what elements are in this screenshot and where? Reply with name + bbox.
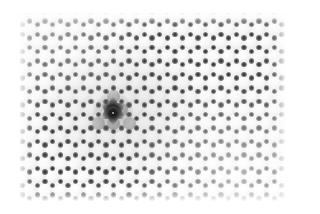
lattice-junction [88,152,93,157]
lattice-junction [65,22,70,27]
lattice-junction [65,75,70,80]
lattice-junction [81,32,86,37]
lattice-junction [218,85,223,90]
lattice-junction [172,32,177,37]
lattice-junction [58,125,63,130]
lattice-junction [96,166,101,171]
lattice-junction [234,58,239,63]
lattice-junction [65,58,70,63]
lattice-junction [42,89,47,94]
lattice-junction [188,139,193,144]
lattice-junction [126,22,131,27]
lattice-junction [272,169,277,174]
lattice-junction [65,139,70,144]
lattice-junction [134,18,139,23]
lattice-junction [73,152,78,157]
lattice-junction [241,116,246,121]
lattice-junction [234,49,239,54]
lattice-junction [218,58,223,63]
lattice-junction [172,192,177,197]
lattice-junction [226,169,231,174]
lattice-junction [195,89,200,94]
lattice-junction [58,35,63,40]
lattice-junction [73,125,78,130]
scan-area [20,13,285,201]
lattice-junction [20,49,25,54]
lattice-junction [195,179,200,184]
lattice-junction [103,169,108,174]
lattice-junction [241,89,246,94]
lattice-junction [195,18,200,23]
lattice-junction [73,99,78,104]
lattice-junction [234,139,239,144]
lattice-junction [172,166,177,171]
lattice-junction [119,169,124,174]
lattice-junction [103,142,108,147]
lattice-junction [203,192,208,197]
lattice-junction [20,102,25,107]
lattice-junction [27,169,32,174]
lattice-junction [218,22,223,27]
lattice-junction [172,183,177,188]
lattice-junction [256,18,261,23]
lattice-junction [165,169,170,174]
lattice-junction [126,75,131,80]
lattice-junction [81,139,86,144]
lattice-junction [188,166,193,171]
lattice-junction [149,99,154,104]
lattice-junction [165,125,170,130]
point-vacancy-defect [104,104,122,122]
lattice-junction [42,142,47,147]
lattice-junction [241,142,246,147]
lattice-junction [165,116,170,121]
lattice-junction [81,102,86,107]
lattice-junction [195,35,200,40]
lattice-junction [195,196,200,201]
lattice-junction [195,116,200,121]
lattice-junction [256,125,261,130]
lattice-junction [149,125,154,130]
lattice-junction [249,166,254,171]
lattice-junction [279,22,284,27]
lattice-junction [65,166,70,171]
hexagonal-lattice [20,13,285,201]
lattice-junction [149,142,154,147]
lattice-junction [73,142,78,147]
lattice-junction [279,139,284,144]
lattice-junction [279,49,284,54]
lattice-junction [20,112,25,117]
lattice-junction [126,192,131,197]
lattice-junction [149,72,154,77]
lattice-junction [256,152,261,157]
lattice-junction [218,112,223,117]
lattice-junction [241,72,246,77]
lattice-junction [65,112,70,117]
lattice-junction [180,169,185,174]
lattice-junction [211,142,216,147]
lattice-junction [20,192,25,197]
lattice-junction [50,192,55,197]
lattice-junction [234,166,239,171]
lattice-junction [111,85,116,90]
lattice-junction [180,18,185,23]
lattice-junction [165,152,170,157]
lattice-junction [279,112,284,117]
lattice-junction [42,99,47,104]
lattice-junction [249,32,254,37]
lattice-junction [65,49,70,54]
lattice-junction [65,129,70,134]
lattice-junction [234,183,239,188]
lattice-junction [272,99,277,104]
lattice-junction [42,116,47,121]
lattice-junction [279,85,284,90]
lattice-junction [203,58,208,63]
lattice-junction [50,58,55,63]
lattice-junction [126,58,131,63]
lattice-junction [279,183,284,188]
lattice-junction [20,166,25,171]
lattice-junction [256,72,261,77]
lattice-junction [234,102,239,107]
lattice-junction [42,152,47,157]
lattice-junction [88,142,93,147]
lattice-junction [234,75,239,80]
